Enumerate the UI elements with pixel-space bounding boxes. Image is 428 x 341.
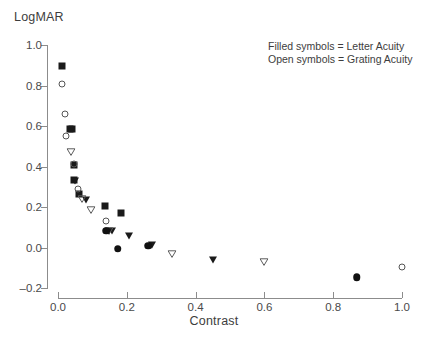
y-tick-label: 0.4 <box>26 161 42 173</box>
data-point <box>104 227 113 235</box>
x-tick <box>333 292 334 298</box>
data-point <box>66 126 73 133</box>
x-tick <box>58 292 59 298</box>
x-tick-label: 1.0 <box>394 301 410 313</box>
y-tick-label: 0.6 <box>26 120 42 132</box>
data-point <box>70 161 77 168</box>
data-point <box>102 202 109 209</box>
data-point <box>67 148 76 156</box>
y-tick-label: –0.2 <box>20 282 42 294</box>
y-tick-label: 1.0 <box>26 39 42 51</box>
data-point <box>353 274 361 282</box>
plot-area <box>58 45 402 288</box>
y-tick-label: 0.8 <box>26 80 42 92</box>
data-point <box>62 133 69 140</box>
data-point <box>114 245 122 253</box>
data-point <box>209 256 217 263</box>
x-tick <box>196 292 197 298</box>
y-tick <box>41 288 48 289</box>
x-tick-label: 0.8 <box>325 301 341 313</box>
data-point <box>70 162 77 169</box>
data-point <box>117 210 124 217</box>
y-axis-line <box>47 45 48 288</box>
data-point <box>59 63 66 70</box>
data-point <box>59 81 66 88</box>
x-tick-label: 0.4 <box>188 301 204 313</box>
legend-line-open: Open symbols = Grating Acuity <box>268 53 412 66</box>
data-point <box>144 242 152 250</box>
data-point <box>78 195 87 203</box>
data-point <box>148 242 156 249</box>
x-tick <box>402 292 403 298</box>
x-axis-title: Contrast <box>0 314 428 328</box>
chart-legend: Filled symbols = Letter Acuity Open symb… <box>268 40 412 66</box>
x-tick-label: 0.2 <box>119 301 135 313</box>
legend-line-filled: Filled symbols = Letter Acuity <box>268 40 412 53</box>
data-point <box>260 258 269 266</box>
x-tick <box>264 292 265 298</box>
data-point <box>103 218 110 225</box>
x-tick-label: 0.0 <box>50 301 66 313</box>
data-point <box>87 206 96 214</box>
y-tick <box>41 45 48 46</box>
x-axis-line <box>58 298 402 299</box>
data-point <box>167 250 176 258</box>
data-point <box>71 176 78 183</box>
y-tick-label: 0.2 <box>26 201 42 213</box>
data-point <box>71 177 79 184</box>
data-point <box>74 185 81 192</box>
data-point <box>399 264 406 271</box>
data-point <box>62 110 69 117</box>
data-point <box>125 233 133 240</box>
x-tick-label: 0.6 <box>256 301 272 313</box>
chart-figure: LogMAR 1.00.80.60.40.20.0–0.2 0.00.20.40… <box>0 0 428 341</box>
y-tick-label: 0.0 <box>26 242 42 254</box>
data-point <box>69 126 76 133</box>
x-tick <box>127 292 128 298</box>
y-axis-title: LogMAR <box>14 10 64 24</box>
